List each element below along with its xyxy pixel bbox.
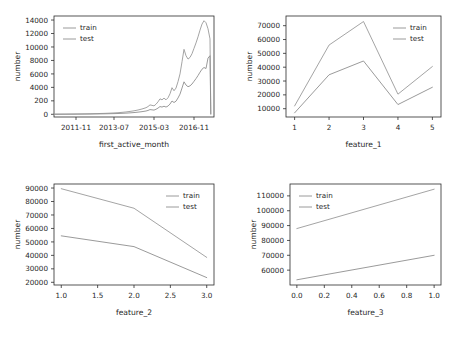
x-tick-label: 2	[327, 123, 332, 132]
y-tick-label: 6000	[30, 70, 49, 79]
y-tick-label: 14000	[25, 16, 48, 25]
legend-label-train: train	[80, 23, 97, 32]
y-tick-label: 40000	[257, 63, 280, 72]
legend-label-train: train	[316, 191, 333, 200]
y-tick-label: 90000	[25, 184, 48, 193]
x-axis-label: feature_3	[347, 308, 383, 317]
y-tick-label: 70000	[261, 251, 284, 260]
subplot-feature-2: 1.01.52.02.53.02000030000400005000060000…	[0, 168, 228, 337]
legend-label-test: test	[80, 34, 94, 43]
plot-area-feature-3: 0.00.20.40.60.81.06000070000800009000010…	[228, 168, 455, 337]
x-tick-label: 2016-11	[179, 123, 209, 132]
series-line-test	[297, 255, 434, 280]
y-tick-label: 0	[43, 110, 48, 119]
y-tick-label: 30000	[25, 264, 48, 273]
y-tick-label: 20000	[25, 278, 48, 287]
x-tick-label: 2.5	[165, 291, 176, 300]
x-tick-label: 0.4	[346, 291, 358, 300]
y-axis-label: number	[249, 219, 258, 250]
y-tick-label: 110000	[257, 191, 285, 200]
plot-area-feature-1: 1234510000200003000040000500006000070000…	[228, 0, 455, 169]
y-tick-label: 40000	[25, 251, 48, 260]
x-tick-label: 0.6	[374, 291, 386, 300]
y-tick-label: 80000	[261, 236, 284, 245]
y-tick-label: 12000	[25, 29, 48, 38]
x-tick-label: 2013-07	[99, 123, 129, 132]
y-tick-label: 10000	[257, 104, 280, 113]
y-tick-label: 200	[34, 96, 48, 105]
y-tick-label: 60000	[25, 224, 48, 233]
y-tick-label: 10000	[25, 43, 48, 52]
x-tick-label: 3.0	[201, 291, 213, 300]
plot-area-feature-2: 1.01.52.02.53.02000030000400005000060000…	[0, 168, 228, 337]
y-tick-label: 8000	[30, 56, 49, 65]
legend-label-train: train	[410, 23, 427, 32]
y-tick-label: 50000	[25, 238, 48, 247]
y-tick-label: 80000	[25, 197, 48, 206]
y-tick-label: 20000	[257, 90, 280, 99]
x-tick-label: 0.2	[319, 291, 330, 300]
x-tick-label: 1	[292, 123, 297, 132]
x-tick-label: 2.0	[128, 291, 140, 300]
x-tick-label: 0.0	[291, 291, 303, 300]
y-tick-label: 60000	[257, 35, 280, 44]
legend-label-test: test	[410, 34, 424, 43]
series-line-test	[54, 56, 211, 115]
figure-canvas: 2011-112013-072015-032016-11020040006000…	[0, 0, 455, 337]
x-tick-label: 1.5	[92, 291, 103, 300]
y-tick-label: 70000	[257, 21, 280, 30]
plot-area-first-active-month: 2011-112013-072015-032016-11020040006000…	[0, 0, 228, 169]
y-tick-label: 50000	[257, 49, 280, 58]
y-axis-label: number	[245, 51, 254, 82]
x-tick-label: 4	[396, 123, 401, 132]
y-tick-label: 90000	[261, 221, 284, 230]
x-axis-label: first_active_month	[99, 140, 169, 149]
x-tick-label: 1.0	[56, 291, 68, 300]
y-axis-label: number	[13, 51, 22, 82]
x-tick-label: 0.8	[401, 291, 413, 300]
y-axis-label: number	[13, 219, 22, 250]
subplot-feature-3: 0.00.20.40.60.81.06000070000800009000010…	[228, 168, 455, 337]
y-tick-label: 30000	[257, 77, 280, 86]
legend-label-train: train	[183, 191, 200, 200]
axis-frame	[290, 184, 441, 285]
x-tick-label: 3	[361, 123, 366, 132]
axis-frame	[54, 16, 214, 117]
x-axis-label: feature_2	[116, 308, 152, 317]
x-tick-label: 1.0	[428, 291, 440, 300]
subplot-first-active-month: 2011-112013-072015-032016-11020040006000…	[0, 0, 228, 169]
x-tick-label: 2015-03	[139, 123, 169, 132]
y-tick-label: 60000	[261, 266, 284, 275]
series-line-train	[54, 21, 211, 114]
y-tick-label: 70000	[25, 211, 48, 220]
x-axis-label: feature_1	[345, 140, 381, 149]
subplot-feature-1: 1234510000200003000040000500006000070000…	[228, 0, 455, 169]
y-tick-label: 4000	[30, 83, 49, 92]
legend-label-test: test	[183, 202, 197, 211]
y-tick-label: 100000	[257, 206, 285, 215]
x-tick-label: 2011-11	[61, 123, 91, 132]
x-tick-label: 5	[430, 123, 435, 132]
legend-label-test: test	[316, 202, 330, 211]
